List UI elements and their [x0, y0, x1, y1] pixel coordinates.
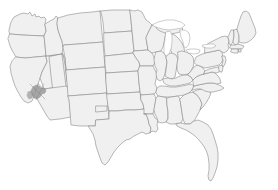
state-utah[interactable]	[49, 54, 68, 90]
state-missouri[interactable]	[138, 66, 157, 95]
state-kansas[interactable]	[106, 71, 140, 94]
state-rhode-island[interactable]	[239, 49, 241, 52]
state-north-dakota[interactable]	[100, 10, 132, 33]
state-south-dakota[interactable]	[104, 31, 134, 56]
state-connecticut[interactable]	[231, 49, 238, 53]
state-wyoming[interactable]	[63, 42, 105, 70]
us-map-figure	[0, 0, 278, 190]
us-map-svg[interactable]	[0, 0, 278, 190]
state-montana[interactable]	[57, 11, 103, 47]
state-colorado[interactable]	[66, 67, 107, 96]
